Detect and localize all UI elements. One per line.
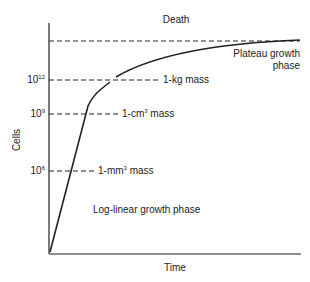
tumor-growth-diagram: 1012 109 106 1-kg mass 1-cm3 mass 1-mm3 …	[0, 0, 310, 282]
x-axis-label: Time	[164, 262, 186, 273]
level-label-1mm3: 1-mm3 mass	[98, 165, 154, 176]
plateau-phase-label-line2: phase	[273, 60, 301, 71]
tick-label-10e9: 109	[31, 108, 46, 119]
tick-label-10e6: 106	[31, 165, 46, 176]
level-label-1cm3: 1-cm3 mass	[122, 108, 174, 119]
death-label: Death	[163, 14, 190, 25]
tick-label-10e12: 1012	[27, 74, 45, 85]
log-linear-phase-label: Log-linear growth phase	[93, 204, 201, 215]
level-label-1kg: 1-kg mass	[163, 74, 209, 85]
plateau-phase-label-line1: Plateau growth	[233, 48, 300, 59]
y-axis-label: Cells	[11, 129, 22, 151]
growth-curve	[50, 40, 300, 252]
